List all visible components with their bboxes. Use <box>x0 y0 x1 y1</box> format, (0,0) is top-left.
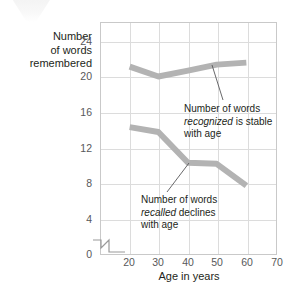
x-tick-label: 40 <box>175 256 201 268</box>
y-tick-label: 8 <box>66 177 92 189</box>
x-tick-label: 50 <box>204 256 230 268</box>
x-axis-break-icon <box>92 232 126 258</box>
annotation-leader-lines <box>0 0 304 295</box>
chart-figure: Number of words remembered 24 20 16 12 8… <box>0 0 304 295</box>
annotation-recalled-line-2: declines <box>176 207 215 218</box>
annotation-recognized-emphasis: recognized <box>184 116 233 127</box>
leader-line-recalled <box>167 163 189 192</box>
x-tick-label: 20 <box>116 256 142 268</box>
y-tick-label: 0 <box>66 248 92 260</box>
y-tick-label: 4 <box>66 213 92 225</box>
y-tick-label: 16 <box>66 106 92 118</box>
annotation-recognized-line-1: Number of words <box>184 103 260 114</box>
x-tick-label: 60 <box>234 256 260 268</box>
y-tick-label: 20 <box>66 70 92 82</box>
leader-line-recognized <box>212 65 223 100</box>
x-tick-label: 70 <box>264 256 290 268</box>
annotation-recalled-line-1: Number of words <box>141 194 217 205</box>
y-tick-label: 12 <box>66 142 92 154</box>
annotation-recognized: Number of words recognized is stable wit… <box>184 103 302 141</box>
annotation-recalled-line-3: with age <box>141 219 178 230</box>
annotation-recalled-emphasis: recalled <box>141 207 176 218</box>
y-tick-label: 24 <box>66 35 92 47</box>
x-tick-label: 30 <box>145 256 171 268</box>
annotation-recalled: Number of words recalled declines with a… <box>141 194 253 232</box>
annotation-recognized-line-2: is stable <box>233 116 272 127</box>
annotation-recognized-line-3: with age <box>184 128 221 139</box>
x-axis-title: Age in years <box>100 270 278 282</box>
